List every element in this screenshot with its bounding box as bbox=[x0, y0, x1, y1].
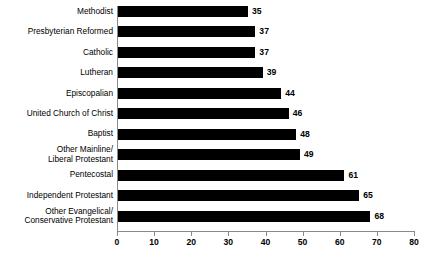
x-axis-tick-label: 60 bbox=[328, 237, 352, 247]
bar-value-label: 68 bbox=[374, 211, 384, 222]
x-axis-tick-label: 0 bbox=[105, 237, 129, 247]
x-axis-tick bbox=[228, 232, 229, 236]
bar-value-label: 39 bbox=[267, 67, 277, 78]
category-label: Other Evangelical/ Conservative Protesta… bbox=[0, 207, 113, 226]
bar-row: Other Mainline/ Liberal Protestant49 bbox=[0, 149, 435, 169]
category-label: Lutheran bbox=[0, 68, 113, 77]
x-axis-tick-label: 40 bbox=[254, 237, 278, 247]
bar bbox=[118, 6, 248, 17]
bar-row: Presbyterian Reformed37 bbox=[0, 26, 435, 46]
bar-value-label: 46 bbox=[293, 108, 303, 119]
x-axis-tick-label: 30 bbox=[216, 237, 240, 247]
bar bbox=[118, 47, 255, 58]
bar-value-label: 65 bbox=[363, 190, 373, 201]
x-axis-tick bbox=[303, 232, 304, 236]
bar bbox=[118, 108, 289, 119]
bar-chart: Methodist35Presbyterian Reformed37Cathol… bbox=[0, 0, 435, 261]
x-axis-tick bbox=[266, 232, 267, 236]
x-axis-tick bbox=[377, 232, 378, 236]
category-label: Pentecostal bbox=[0, 170, 113, 179]
x-axis-tick bbox=[154, 232, 155, 236]
bar-value-label: 44 bbox=[285, 88, 295, 99]
category-label: Episcopalian bbox=[0, 89, 113, 98]
x-axis-tick-label: 80 bbox=[402, 237, 426, 247]
bar-value-label: 37 bbox=[259, 26, 269, 37]
bar bbox=[118, 149, 300, 160]
bar-value-label: 48 bbox=[300, 129, 310, 140]
bar bbox=[118, 67, 263, 78]
x-axis-tick-label: 10 bbox=[142, 237, 166, 247]
bar-row: Lutheran39 bbox=[0, 67, 435, 87]
x-axis-tick bbox=[414, 232, 415, 236]
bar bbox=[118, 26, 255, 37]
category-label: Other Mainline/ Liberal Protestant bbox=[0, 145, 113, 164]
bar-row: Other Evangelical/ Conservative Protesta… bbox=[0, 211, 435, 231]
bar bbox=[118, 190, 359, 201]
bar bbox=[118, 211, 370, 222]
bar-value-label: 49 bbox=[304, 149, 314, 160]
bar-value-label: 37 bbox=[259, 47, 269, 58]
category-label: Independent Protestant bbox=[0, 191, 113, 200]
bar bbox=[118, 129, 296, 140]
bar bbox=[118, 88, 281, 99]
x-axis-tick-label: 20 bbox=[179, 237, 203, 247]
bar-row: Pentecostal61 bbox=[0, 170, 435, 190]
x-axis-tick-label: 70 bbox=[365, 237, 389, 247]
x-axis-tick bbox=[117, 232, 118, 236]
bar-value-label: 35 bbox=[252, 6, 262, 17]
category-label: Methodist bbox=[0, 7, 113, 16]
category-label: United Church of Christ bbox=[0, 109, 113, 118]
bar bbox=[118, 170, 344, 181]
category-label: Catholic bbox=[0, 48, 113, 57]
bar-row: Methodist35 bbox=[0, 6, 435, 26]
category-label: Presbyterian Reformed bbox=[0, 27, 113, 36]
x-axis-tick bbox=[340, 232, 341, 236]
bar-row: United Church of Christ46 bbox=[0, 108, 435, 128]
bar-row: Episcopalian44 bbox=[0, 88, 435, 108]
bar-value-label: 61 bbox=[348, 170, 358, 181]
bar-row: Catholic37 bbox=[0, 47, 435, 67]
category-label: Baptist bbox=[0, 129, 113, 138]
x-axis-tick-label: 50 bbox=[291, 237, 315, 247]
x-axis-tick bbox=[191, 232, 192, 236]
